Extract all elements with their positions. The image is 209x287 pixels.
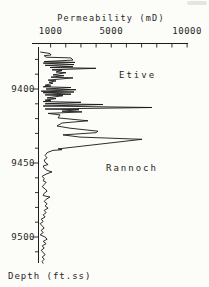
- y-axis-title: Depth (ft.ss): [8, 271, 91, 281]
- y-tick-label: 9500: [2, 232, 35, 242]
- formation-label-etive: Etive: [119, 70, 156, 80]
- log-plot-canvas: [0, 0, 209, 287]
- permeability-curve: [40, 52, 152, 264]
- permeability-depth-log-figure: Permeability (mD) 1000500010000 94009450…: [0, 0, 209, 287]
- x-tick-label: 5000: [99, 26, 123, 36]
- x-tick-label: 1000: [39, 26, 63, 36]
- x-tick-label: 10000: [172, 26, 202, 36]
- y-tick-label: 9400: [2, 84, 35, 94]
- formation-label-rannoch: Rannoch: [106, 163, 158, 173]
- y-tick-label: 9450: [2, 158, 35, 168]
